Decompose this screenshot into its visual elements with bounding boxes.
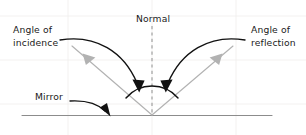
angle-of-reflection-label-line2: reflection bbox=[251, 37, 296, 48]
normal-label: Normal bbox=[136, 13, 170, 24]
angle-of-reflection-label-line1: Angle of bbox=[251, 24, 291, 35]
reflection-diagram: Angle of incidence Angle of reflection N… bbox=[0, 0, 306, 135]
angle-of-incidence-label-line1: Angle of bbox=[13, 24, 53, 35]
mirror-pointer-arrow bbox=[70, 101, 111, 117]
mirror-label: Mirror bbox=[35, 91, 63, 102]
diagram-canvas: Angle of incidence Angle of reflection N… bbox=[0, 0, 306, 135]
angle-of-incidence-label-line2: incidence bbox=[13, 37, 59, 48]
